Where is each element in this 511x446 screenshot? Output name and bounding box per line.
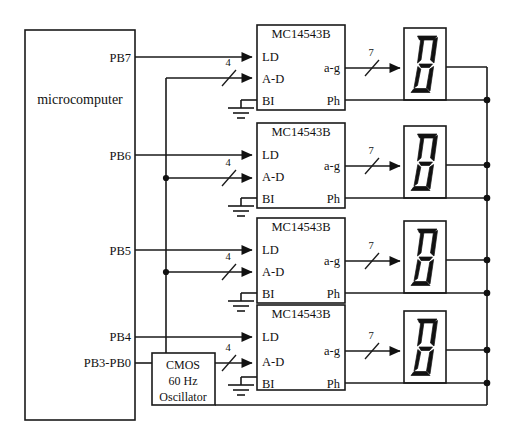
pin-label-ph-3: Ph xyxy=(327,287,341,301)
pin-label-ag-3: a-g xyxy=(324,254,341,268)
port-label-pb5: PB5 xyxy=(109,244,131,258)
pin-label-bi-3: BI xyxy=(262,287,275,301)
port-label-pb6: PB6 xyxy=(109,149,131,163)
ground-symbol-3 xyxy=(228,293,257,311)
bus-width-label-ad3: 4 xyxy=(225,251,231,262)
microcomputer-label: microcomputer xyxy=(37,92,123,107)
bus-width-label-ag3: 7 xyxy=(368,240,373,251)
pin-label-ld-4: LD xyxy=(262,330,279,344)
seven-segment-display-2 xyxy=(404,126,446,198)
pin-label-bi-4: BI xyxy=(262,377,275,391)
pin-label-ad-2: A-D xyxy=(262,170,284,184)
port-label-pb7: PB7 xyxy=(109,51,131,65)
ground-symbol-2 xyxy=(228,198,257,216)
ground-symbol-1 xyxy=(228,100,257,118)
decoder-block-4: MC14543B LD A-D BI a-g Ph xyxy=(257,305,345,391)
pin-label-ad-1: A-D xyxy=(262,72,284,86)
pin-label-ld-1: LD xyxy=(262,50,279,64)
ground-symbol-4 xyxy=(228,377,257,395)
bus-width-label-ag2: 7 xyxy=(368,145,373,156)
oscillator-label-line3: Oscillator xyxy=(159,390,206,404)
ld-wire-group xyxy=(135,57,252,337)
segment-d-3 xyxy=(411,282,430,286)
seven-segment-display-1 xyxy=(404,28,446,100)
pin-label-ph-1: Ph xyxy=(327,94,341,108)
junction-dot-backplane-3 xyxy=(484,195,491,202)
bus-width-label-ag1: 7 xyxy=(368,47,373,58)
junction-dot-bus-2 xyxy=(163,175,169,181)
port-label-pb4: PB4 xyxy=(109,330,131,344)
decoder-block-2: MC14543B LD A-D BI a-g Ph xyxy=(257,123,345,208)
decoder-part-label-4: MC14543B xyxy=(271,307,330,321)
decoder-part-label-1: MC14543B xyxy=(271,27,330,41)
bus-width-label-ad2: 4 xyxy=(225,157,231,168)
seven-segment-display-4 xyxy=(404,311,446,383)
bus-width-label-ag4: 7 xyxy=(368,330,373,341)
pin-label-ph-2: Ph xyxy=(327,192,341,206)
port-label-pb3-pb0: PB3-PB0 xyxy=(84,356,131,370)
decoder-block-3: MC14543B LD A-D BI a-g Ph xyxy=(257,218,345,303)
pin-label-ag-1: a-g xyxy=(324,61,341,75)
segment-bus-group: 7 7 7 7 xyxy=(345,47,400,359)
pin-label-ph-4: Ph xyxy=(327,377,341,391)
bus-width-label-ad1: 4 xyxy=(225,57,231,68)
schematic-canvas: microcomputer PB7 PB6 PB5 PB4 PB3-PB0 xyxy=(0,0,511,446)
decoder-part-label-2: MC14543B xyxy=(271,125,330,139)
junction-dot-bus-3 xyxy=(163,269,169,275)
junction-dot-backplane-5 xyxy=(484,290,491,297)
data-bus-group: 4 4 4 4 xyxy=(135,57,252,371)
segment-d-4 xyxy=(411,372,430,376)
decoder-part-label-3: MC14543B xyxy=(271,220,330,234)
pin-label-ad-3: A-D xyxy=(262,265,284,279)
oscillator-block: CMOS 60 Hz Oscillator xyxy=(152,353,215,405)
junction-dot-backplane-2 xyxy=(484,162,491,169)
junction-dot-backplane-7 xyxy=(484,380,491,387)
pin-label-bi-2: BI xyxy=(262,192,275,206)
schematic-figure: microcomputer PB7 PB6 PB5 PB4 PB3-PB0 xyxy=(0,0,511,446)
pin-label-bi-1: BI xyxy=(262,94,275,108)
junction-dot-backplane-6 xyxy=(484,347,491,354)
oscillator-label-line2: 60 Hz xyxy=(169,374,198,388)
oscillator-label-line1: CMOS xyxy=(166,358,200,372)
pin-label-ag-4: a-g xyxy=(324,344,341,358)
pin-label-ad-4: A-D xyxy=(262,355,284,369)
segment-d-2 xyxy=(411,187,430,191)
decoder-block-1: MC14543B LD A-D BI a-g Ph xyxy=(257,25,345,110)
junction-dot-backplane-1 xyxy=(484,97,491,104)
seven-segment-display-3 xyxy=(404,221,446,293)
pin-label-ld-2: LD xyxy=(262,148,279,162)
pin-label-ld-3: LD xyxy=(262,243,279,257)
segment-d-1 xyxy=(411,89,430,93)
junction-dot-backplane-4 xyxy=(484,257,491,264)
pin-label-ag-2: a-g xyxy=(324,159,341,173)
bus-width-label-ad4: 4 xyxy=(225,342,231,353)
